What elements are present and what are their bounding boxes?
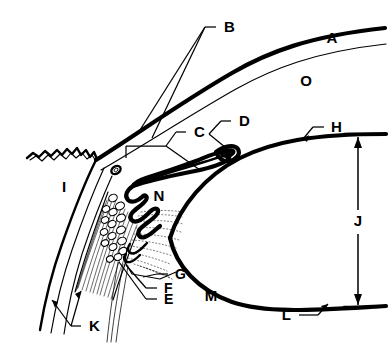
label-M: M [205,287,218,304]
label-H: H [331,118,342,135]
label-C: C [194,123,205,140]
label-D: D [239,112,250,129]
label-O: O [300,72,312,89]
label-B: B [224,18,235,35]
label-J: J [354,212,362,229]
anatomy-diagram: B C D E F [0,0,390,345]
label-N: N [154,187,165,204]
label-L: L [282,306,291,323]
diagram-canvas: B C D E F [0,0,390,345]
label-K: K [89,317,100,334]
label-F: F [164,280,173,296]
label-A: A [327,29,338,46]
label-G: G [175,266,186,282]
label-I: I [62,178,66,195]
